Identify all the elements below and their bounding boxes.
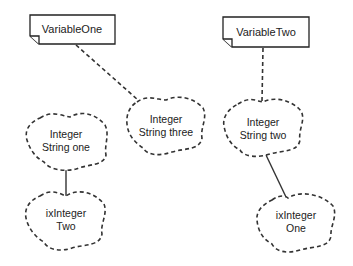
cloud-line1: Integer bbox=[50, 128, 83, 140]
link-variabletwo-stringtwo bbox=[262, 48, 263, 101]
cloud-line2: String three bbox=[139, 126, 193, 138]
cloud-string-two[interactable]: Integer String two bbox=[224, 99, 303, 156]
link-variableone-stringthree bbox=[76, 45, 138, 100]
cloud-line2: String one bbox=[42, 141, 90, 153]
cloud-line1: Integer bbox=[247, 116, 280, 128]
diagram-canvas: VariableOne VariableTwo Integer String o… bbox=[0, 0, 353, 266]
link-stringtwo-ixone bbox=[266, 155, 286, 197]
cloud-string-three[interactable]: Integer String three bbox=[127, 97, 205, 154]
cloud-line2: One bbox=[286, 222, 306, 234]
cloud-line1: ixInteger bbox=[46, 207, 87, 219]
note-label: VariableTwo bbox=[236, 26, 296, 38]
cloud-line1: ixInteger bbox=[276, 209, 317, 221]
cloud-line1: Integer bbox=[150, 113, 183, 125]
cloud-line2: String two bbox=[240, 129, 287, 141]
note-variable-two[interactable]: VariableTwo bbox=[223, 17, 309, 47]
cloud-ix-two[interactable]: ixInteger Two bbox=[26, 192, 106, 250]
cloud-string-one[interactable]: Integer String one bbox=[26, 114, 107, 171]
cloud-line2: Two bbox=[56, 220, 75, 232]
note-variable-one[interactable]: VariableOne bbox=[30, 15, 115, 44]
cloud-ix-one[interactable]: ixInteger One bbox=[257, 194, 335, 252]
note-label: VariableOne bbox=[42, 23, 102, 35]
